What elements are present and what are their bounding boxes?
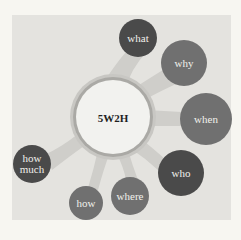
center-label: 5W2H [98, 112, 129, 124]
node-label-where: where [117, 191, 144, 202]
node-label-why: why [175, 58, 194, 69]
node-label-who: who [172, 168, 191, 179]
node-label-how: how [77, 198, 96, 209]
node-label-how-much: how much [20, 153, 44, 175]
node-label-when: when [194, 114, 218, 125]
node-label-what: what [127, 33, 148, 44]
